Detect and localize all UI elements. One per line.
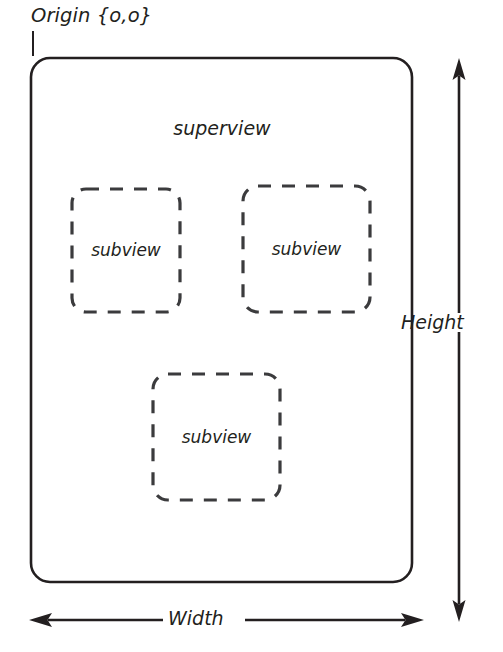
subview-3: subview bbox=[153, 374, 280, 500]
width-label: Width bbox=[168, 609, 224, 628]
height-arrow bbox=[453, 58, 466, 622]
subview-2: subview bbox=[243, 186, 370, 312]
origin-label: Origin {o,o} bbox=[31, 6, 152, 26]
subview-label-2: subview bbox=[243, 241, 370, 258]
width-arrow bbox=[29, 613, 424, 627]
diagram-canvas: Origin {o,o} superview subview subview s… bbox=[0, 0, 503, 652]
subview-label-1: subview bbox=[72, 242, 180, 259]
subview-1: subview bbox=[72, 189, 180, 312]
superview-label: superview bbox=[0, 119, 444, 138]
subview-label-3: subview bbox=[153, 429, 280, 446]
height-label: Height bbox=[401, 313, 464, 332]
